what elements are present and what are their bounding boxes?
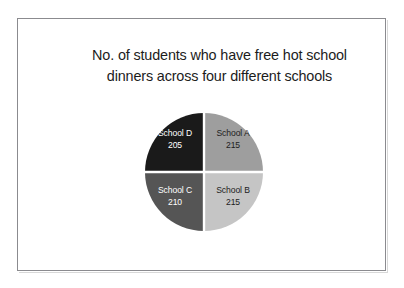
pie-label-school-c-name: School C xyxy=(146,185,204,197)
pie-label-school-a: School A 215 xyxy=(204,128,262,151)
pie-label-school-c: School C 210 xyxy=(146,185,204,208)
pie-label-school-d-value: 205 xyxy=(146,140,204,152)
pie-label-school-a-value: 215 xyxy=(204,140,262,152)
pie-label-school-b: School B 215 xyxy=(204,185,262,208)
pie-label-school-b-value: 215 xyxy=(204,197,262,209)
pie-label-school-d: School D 205 xyxy=(146,128,204,151)
chart-title-line-2: dinners across four different schools xyxy=(35,66,404,87)
pie-label-school-c-value: 210 xyxy=(146,197,204,209)
pie-label-school-d-name: School D xyxy=(146,128,204,140)
pie-label-school-a-name: School A xyxy=(204,128,262,140)
chart-title-line-1: No. of students who have free hot school xyxy=(35,45,404,66)
chart-title: No. of students who have free hot school… xyxy=(35,45,404,87)
pie-label-school-b-name: School B xyxy=(204,185,262,197)
slide-canvas: No. of students who have free hot school… xyxy=(0,0,404,288)
